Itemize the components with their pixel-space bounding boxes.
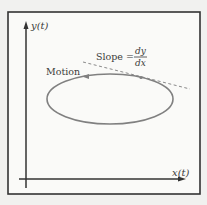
tangent-point [139,76,142,79]
frame [8,12,200,194]
diagram-canvas [0,0,207,205]
